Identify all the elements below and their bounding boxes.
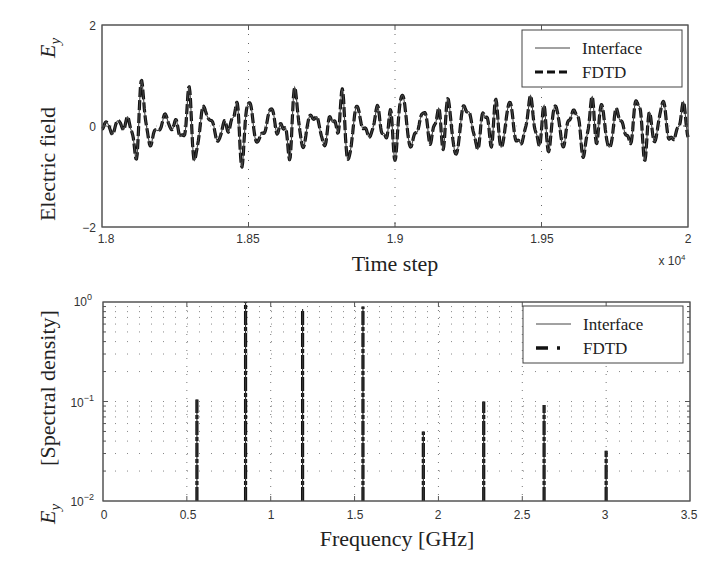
bottom-xticks: 0 0.5 1 1.5 2 2.5 3 3.5: [101, 508, 698, 522]
bottom-ylabel-text: [Spectral density]: [35, 310, 60, 466]
xtick-1: 1: [268, 508, 275, 522]
top-ylabel-symbol: Ey: [35, 38, 63, 59]
xtick-3.5: 3.5: [681, 508, 698, 522]
legend-interface: Interface: [583, 315, 643, 334]
ytick-2: 2: [89, 19, 96, 33]
xtick-1.5: 1.5: [347, 508, 364, 522]
time-domain-plot: 2 0 −2 1.8 1.85 1.9 1.95 2 x 104 Time st…: [35, 19, 692, 276]
figure: 2 0 −2 1.8 1.85 1.9 1.95 2 x 104 Time st…: [0, 0, 711, 570]
spectrum-plot: 100 10−1 10−2 0 0.5 1 1.5 2 2.5 3 3.5 Fr…: [35, 292, 698, 551]
xtick-1.9: 1.9: [387, 232, 404, 246]
xtick-2: 2: [435, 508, 442, 522]
xtick-3: 3: [602, 508, 609, 522]
bottom-legend: Interface FDTD: [523, 306, 683, 363]
legend-interface: Interface: [582, 39, 642, 58]
xtick-1.95: 1.95: [530, 232, 554, 246]
legend-fdtd: FDTD: [583, 339, 627, 358]
ytick-1e-1: 10−1: [70, 393, 94, 410]
xtick-0: 0: [101, 508, 108, 522]
ytick-1e-2: 10−2: [70, 492, 94, 509]
bottom-yticks: 100 10−1 10−2: [70, 292, 94, 509]
legend-fdtd: FDTD: [582, 63, 626, 82]
bottom-xlabel: Frequency [GHz]: [320, 526, 475, 551]
xtick-2: 2: [685, 232, 692, 246]
top-legend: Interface FDTD: [522, 30, 682, 87]
xtick-1.85: 1.85: [236, 232, 260, 246]
top-xlabel: Time step: [352, 251, 439, 276]
xtick-2.5: 2.5: [514, 508, 531, 522]
bottom-ylabel: [Spectral density] Ey: [35, 310, 63, 525]
xtick-1.8: 1.8: [98, 232, 115, 246]
ytick-neg2: −2: [82, 221, 96, 235]
ytick-1e0: 100: [74, 292, 92, 309]
ytick-0: 0: [89, 120, 96, 134]
top-ylabel: Electric field Ey: [35, 38, 63, 222]
top-ylabel-text: Electric field: [35, 107, 60, 221]
bottom-ylabel-symbol: Ey: [35, 504, 63, 525]
x-multiplier: x 104: [658, 253, 686, 268]
xtick-0.5: 0.5: [180, 508, 197, 522]
